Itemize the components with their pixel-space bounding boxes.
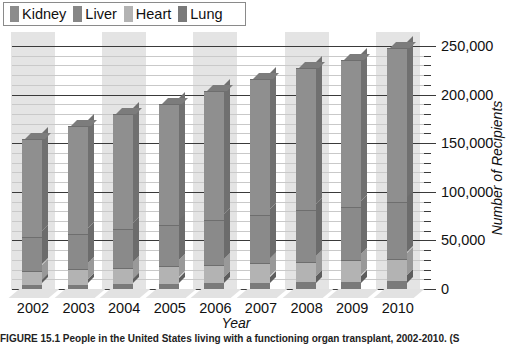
y-tick-mark — [424, 250, 431, 251]
x-tick-label: 2008 — [290, 300, 322, 316]
y-tick-mark — [424, 114, 431, 115]
x-tick-label: 2002 — [17, 300, 49, 316]
bar-segment-kidney — [387, 48, 407, 203]
y-tick-mark — [424, 124, 431, 125]
y-tick-mark — [424, 95, 436, 96]
legend-item-heart: Heart — [124, 6, 171, 22]
y-tick-mark — [424, 46, 436, 47]
bar-side-kidney — [270, 67, 276, 209]
y-tick-mark — [424, 279, 431, 280]
y-tick-mark — [424, 202, 431, 203]
y-tick-label: 0 — [441, 281, 449, 297]
bar-segment-liver — [22, 237, 42, 270]
bar-segment-kidney — [68, 126, 88, 234]
bar-segment-heart — [387, 259, 407, 281]
legend-swatch — [178, 6, 187, 22]
y-tick-mark — [424, 75, 431, 76]
bar-segment-heart — [296, 262, 316, 282]
legend-label: Liver — [85, 6, 116, 22]
x-tick-label: 2004 — [108, 300, 140, 316]
legend-label: Kidney — [22, 6, 66, 22]
y-axis-label: Number of Recipients — [489, 101, 505, 236]
legend-swatch — [10, 6, 19, 22]
bar-side-liver — [407, 190, 413, 252]
bar-side-kidney — [407, 36, 413, 197]
bar-side-liver — [361, 195, 367, 254]
bar-side-kidney — [361, 48, 367, 201]
bar-segment-heart — [22, 271, 42, 286]
floor-slab — [100, 289, 151, 298]
x-tick-label: 2005 — [154, 300, 186, 316]
legend-item-liver: Liver — [73, 6, 116, 22]
bar-segment-lung — [68, 285, 88, 289]
figure-caption: FIGURE 15.1 People in the United States … — [0, 333, 460, 344]
y-tick-mark — [424, 182, 431, 183]
bar-segment-lung — [296, 282, 316, 289]
y-tick-mark — [424, 56, 431, 57]
bar-segment-heart — [341, 260, 361, 281]
bar-segment-heart — [113, 268, 133, 285]
bar-segment-heart — [159, 266, 179, 283]
y-tick-mark — [424, 240, 436, 241]
legend: KidneyLiverHeartLung — [3, 2, 246, 26]
bar-segment-liver — [341, 207, 361, 260]
y-tick-label: 250,000 — [441, 38, 493, 54]
floor-slab — [145, 289, 196, 298]
bar-segment-lung — [113, 284, 133, 289]
bar-segment-lung — [250, 283, 270, 289]
y-tick-label: 150,000 — [441, 135, 493, 151]
x-tick-label: 2003 — [62, 300, 94, 316]
bar-segment-liver — [68, 234, 88, 269]
bar-segment-lung — [341, 282, 361, 289]
bar-side-kidney — [42, 127, 48, 231]
bar-side-liver — [316, 198, 322, 256]
y-tick-mark — [424, 289, 436, 290]
y-tick-mark — [424, 231, 431, 232]
bar-segment-kidney — [250, 79, 270, 215]
bar-side-kidney — [88, 114, 94, 228]
y-tick-mark — [424, 143, 436, 144]
bar-segment-kidney — [113, 114, 133, 229]
bar-segment-liver — [250, 215, 270, 264]
bar-side-liver — [224, 208, 230, 259]
y-tick-mark — [424, 85, 431, 86]
bar-segment-kidney — [22, 139, 42, 237]
bar-side-liver — [42, 225, 48, 264]
y-tick-mark — [424, 192, 436, 193]
floor-slab — [373, 289, 424, 298]
bar-side-kidney — [179, 92, 185, 220]
x-tick-label: 2007 — [245, 300, 277, 316]
y-tick-mark — [424, 221, 431, 222]
y-tick-mark — [424, 172, 431, 173]
legend-swatch — [124, 6, 133, 22]
floor-slab — [191, 289, 242, 298]
bar-side-kidney — [224, 79, 230, 214]
y-tick-mark — [424, 270, 431, 271]
floor-slab — [54, 289, 105, 298]
bar-segment-heart — [204, 265, 224, 283]
bar-segment-lung — [22, 285, 42, 289]
bar-segment-liver — [387, 202, 407, 258]
bar-segment-kidney — [159, 104, 179, 226]
bar-side-liver — [179, 213, 185, 260]
y-tick-mark — [424, 65, 431, 66]
x-tick-label: 2010 — [382, 300, 414, 316]
y-tick-mark — [424, 153, 431, 154]
bar-side-liver — [270, 203, 276, 258]
y-tick-label: 200,000 — [441, 87, 493, 103]
y-tick-mark — [424, 260, 431, 261]
y-tick-mark — [424, 211, 431, 212]
bar-segment-liver — [113, 229, 133, 268]
major-gridline — [12, 46, 424, 47]
y-tick-mark — [424, 163, 431, 164]
y-tick-label: 50,000 — [441, 232, 485, 248]
bar-segment-heart — [250, 263, 270, 282]
bar-segment-kidney — [341, 60, 361, 207]
floor-slab — [282, 289, 333, 298]
floor-slab — [9, 289, 60, 298]
bar-side-liver — [88, 222, 94, 263]
legend-label: Heart — [136, 6, 171, 22]
bar-segment-kidney — [204, 91, 224, 220]
y-tick-mark — [424, 133, 431, 134]
